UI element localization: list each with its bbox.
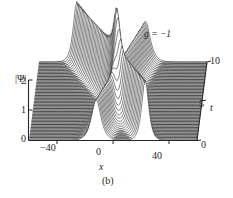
y-tick-label-1: 1 bbox=[21, 105, 26, 115]
x-tick-label-0: 0 bbox=[96, 147, 101, 157]
t-tick-label-0: 0 bbox=[201, 140, 206, 150]
coupling-annotation: g = −1 bbox=[144, 30, 171, 40]
t-tick-label-10: 10 bbox=[210, 56, 220, 66]
x-tick-label-40: 40 bbox=[152, 151, 162, 161]
x-tick-label-minus40: −40 bbox=[40, 143, 56, 153]
y-tick-label-2: 2 bbox=[21, 76, 26, 86]
y-tick-label-0: 0 bbox=[21, 134, 26, 144]
figure-caption: (b) bbox=[102, 176, 114, 186]
t-tick-label-5: 5 bbox=[199, 99, 204, 109]
x-axis-label: x bbox=[99, 162, 103, 172]
t-axis-label: t bbox=[210, 103, 213, 113]
